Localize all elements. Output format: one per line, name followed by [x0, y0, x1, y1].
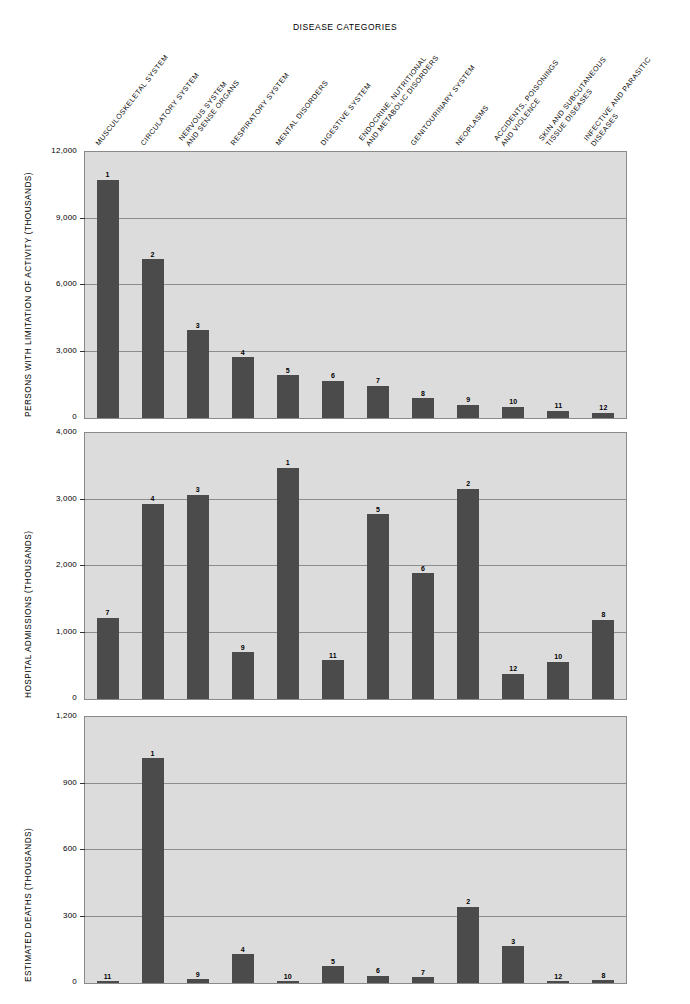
bar-rank-label: 11 [96, 973, 120, 980]
y-tick-mark [80, 218, 85, 219]
bar [142, 758, 164, 983]
category-label-9: NEOPLASMS [454, 104, 491, 148]
bar-rank-label: 8 [591, 972, 615, 979]
bar-rank-label: 5 [321, 958, 345, 965]
bar [97, 618, 119, 699]
bar [592, 620, 614, 699]
bar-rank-label: 4 [141, 495, 165, 502]
bar-rank-label: 5 [366, 506, 390, 513]
y-axis-title: PERSONS WITH LIMITATION OF ACTIVITY (THO… [24, 172, 33, 417]
bar-rank-label: 2 [456, 898, 480, 905]
gridline [85, 284, 626, 285]
bar [457, 489, 479, 699]
bar [97, 180, 119, 419]
bar [592, 413, 614, 418]
bar-rank-label: 5 [276, 367, 300, 374]
category-label-line: AND METABOLIC DISORDERS [364, 53, 441, 148]
y-tick-mark [80, 783, 85, 784]
bar [502, 674, 524, 699]
bar-rank-label: 9 [231, 644, 255, 651]
y-tick-mark [80, 916, 85, 917]
gridline [85, 351, 626, 352]
bar-rank-label: 10 [276, 973, 300, 980]
bar-rank-label: 1 [141, 750, 165, 757]
y-tick-label: 3,000 [31, 346, 77, 355]
bar [187, 495, 209, 699]
bar [232, 954, 254, 983]
gridline [85, 218, 626, 219]
y-tick-label: 1,000 [31, 627, 77, 636]
y-tick-mark [80, 565, 85, 566]
bar [277, 981, 299, 983]
gridline [85, 499, 626, 500]
category-label-line: NEOPLASMS [454, 104, 491, 148]
bar [502, 407, 524, 418]
bar [412, 977, 434, 983]
y-tick-mark [80, 284, 85, 285]
bar-rank-label: 12 [501, 665, 525, 672]
bar-rank-label: 8 [411, 390, 435, 397]
y-tick-label: 9,000 [31, 213, 77, 222]
bar-rank-label: 9 [186, 971, 210, 978]
bar [142, 504, 164, 700]
y-tick-label: 1,200 [31, 711, 77, 720]
bar [232, 652, 254, 699]
y-tick-label: 600 [31, 844, 77, 853]
bar [367, 976, 389, 983]
y-tick-label: 3,000 [31, 494, 77, 503]
bar-rank-label: 12 [591, 404, 615, 411]
bar [277, 468, 299, 699]
bar [142, 259, 164, 418]
chart-panel-hospital-admissions: 743911156212108 [84, 432, 627, 700]
bar [457, 405, 479, 418]
bar-rank-label: 11 [321, 652, 345, 659]
y-tick-label: 900 [31, 778, 77, 787]
bar-rank-label: 7 [411, 969, 435, 976]
bar-rank-label: 8 [591, 611, 615, 618]
bar-rank-label: 3 [186, 486, 210, 493]
bar-rank-label: 1 [276, 459, 300, 466]
gridline [85, 916, 626, 917]
bar-rank-label: 1 [96, 171, 120, 178]
bar [277, 375, 299, 418]
bar [547, 662, 569, 699]
bar [322, 966, 344, 983]
y-tick-mark [80, 351, 85, 352]
bar-rank-label: 4 [231, 946, 255, 953]
y-tick-mark [80, 632, 85, 633]
category-axis-labels: MUSCULOSKELETAL SYSTEMCIRCULATORY SYSTEM… [0, 36, 690, 148]
bar [457, 907, 479, 983]
bar [367, 514, 389, 699]
y-tick-label: 300 [31, 911, 77, 920]
bar-rank-label: 2 [141, 251, 165, 258]
y-tick-mark [80, 849, 85, 850]
chart-title: DISEASE CATEGORIES [0, 22, 690, 32]
y-tick-label: 6,000 [31, 279, 77, 288]
y-tick-label: 0 [31, 977, 77, 986]
bar [322, 381, 344, 418]
bar [412, 398, 434, 418]
bar-rank-label: 3 [501, 938, 525, 945]
y-axis-title: ESTIMATED DEATHS (THOUSANDS) [24, 828, 33, 982]
bar [592, 980, 614, 983]
category-label-7: ENDOCRINE, NUTRITIONALAND METABOLIC DISO… [357, 48, 440, 148]
bar [187, 979, 209, 983]
y-tick-mark [80, 499, 85, 500]
y-tick-label: 12,000 [31, 146, 77, 155]
chart-panel-limitation-of-activity: 123456789101112 [84, 151, 627, 419]
y-tick-label: 4,000 [31, 427, 77, 436]
bar-rank-label: 4 [231, 349, 255, 356]
y-axis-title: HOSPITAL ADMISSIONS (THOUSANDS) [24, 531, 33, 698]
bar [547, 411, 569, 418]
bar-rank-label: 10 [546, 653, 570, 660]
bar-rank-label: 9 [456, 396, 480, 403]
category-label-1: MUSCULOSKELETAL SYSTEM [94, 54, 170, 148]
bar [187, 330, 209, 418]
y-tick-label: 0 [31, 693, 77, 702]
gridline [85, 565, 626, 566]
bar-rank-label: 11 [546, 402, 570, 409]
bar-rank-label: 12 [546, 973, 570, 980]
bar-rank-label: 3 [186, 322, 210, 329]
bar [412, 573, 434, 699]
bar-rank-label: 10 [501, 398, 525, 405]
